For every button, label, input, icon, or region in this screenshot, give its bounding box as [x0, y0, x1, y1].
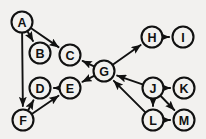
graph-node-f[interactable]: F: [13, 110, 34, 131]
node-label-g: G: [99, 65, 109, 79]
graph-node-l[interactable]: L: [143, 110, 164, 131]
graph-edge-j-to-m: [161, 96, 175, 110]
graph-edge-g-to-e: [82, 76, 94, 82]
node-label-b: B: [35, 47, 44, 61]
graph-svg: ABCDEFGHIJKLM: [0, 0, 206, 139]
graph-node-k[interactable]: K: [174, 78, 195, 99]
node-label-k: K: [179, 82, 188, 96]
node-label-f: F: [19, 114, 27, 128]
graph-node-a[interactable]: A: [12, 12, 33, 33]
node-label-i: I: [181, 31, 184, 45]
graph-node-d[interactable]: D: [30, 78, 51, 99]
graph-edge-f-to-d: [28, 100, 33, 110]
graph-edge-g-to-c: [83, 61, 94, 66]
graph-edge-a-to-b: [28, 32, 33, 41]
node-label-m: M: [179, 114, 189, 128]
graph-edge-l-to-g: [114, 81, 145, 112]
graph-node-j[interactable]: J: [143, 78, 164, 99]
node-label-h: H: [147, 31, 156, 45]
graph-node-c[interactable]: C: [60, 45, 81, 66]
graph-node-g[interactable]: G: [94, 61, 115, 82]
graph-node-i[interactable]: I: [173, 27, 194, 48]
graph-node-b[interactable]: B: [30, 43, 51, 64]
graph-node-m[interactable]: M: [174, 110, 195, 131]
graph-edge-g-to-h: [113, 45, 141, 65]
graph-node-e[interactable]: E: [60, 78, 81, 99]
graph-node-h[interactable]: H: [142, 27, 163, 48]
node-label-j: J: [150, 82, 157, 96]
graph-edge-a-to-f: [22, 33, 23, 106]
graph-nodes-layer: ABCDEFGHIJKLM: [12, 12, 195, 131]
node-label-a: A: [17, 16, 26, 30]
node-label-d: D: [35, 82, 44, 96]
graph-diagram-canvas: ABCDEFGHIJKLM: [0, 0, 206, 139]
node-label-l: L: [149, 114, 157, 128]
node-label-c: C: [65, 49, 74, 63]
node-label-e: E: [66, 82, 74, 96]
graph-edge-j-to-g: [117, 76, 142, 85]
